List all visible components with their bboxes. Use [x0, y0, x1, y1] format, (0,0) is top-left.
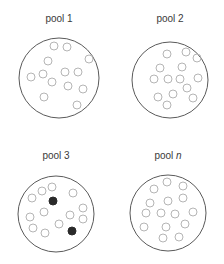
empty-item [29, 224, 37, 232]
empty-item [73, 101, 81, 109]
empty-item [79, 85, 87, 93]
filled-item [68, 227, 76, 235]
empty-item [64, 82, 72, 90]
empty-item [142, 209, 150, 217]
empty-item [183, 84, 191, 92]
pool-label-suffix: 1 [67, 13, 73, 24]
empty-item [156, 64, 164, 72]
empty-item [189, 94, 197, 102]
empty-item [182, 48, 190, 56]
pool-label-prefix: pool [154, 150, 176, 161]
empty-item [162, 223, 170, 231]
pools-diagram [0, 0, 224, 264]
empty-item [39, 70, 47, 78]
empty-item [194, 74, 202, 82]
empty-item [163, 101, 171, 109]
empty-item [164, 75, 172, 83]
empty-item [61, 68, 69, 76]
empty-item [28, 194, 36, 202]
empty-item [175, 233, 183, 241]
pool-boundary [130, 175, 206, 251]
empty-item [146, 199, 154, 207]
pool-boundary [132, 42, 208, 118]
empty-item [157, 209, 165, 217]
empty-item [40, 208, 48, 216]
pool-label-suffix: 2 [178, 13, 184, 24]
empty-item [48, 78, 56, 86]
empty-item [163, 178, 171, 186]
pool-n-label: pool n [128, 150, 208, 161]
empty-item [38, 187, 46, 195]
empty-item [179, 194, 187, 202]
empty-item [181, 220, 189, 228]
pool-label-prefix: pool [42, 150, 64, 161]
pool-label-prefix: pool [156, 13, 178, 24]
pool-2 [132, 42, 208, 118]
pool-1 [19, 38, 99, 118]
empty-item [193, 54, 201, 62]
empty-item [179, 182, 187, 190]
empty-item [150, 185, 158, 193]
pool-1-label: pool 1 [19, 13, 99, 24]
empty-item [163, 50, 171, 58]
pool-label-suffix: n [176, 150, 182, 161]
empty-item [169, 90, 177, 98]
pool-boundary [19, 38, 99, 118]
pool-4 [130, 175, 206, 251]
empty-item [159, 234, 167, 242]
empty-item [63, 43, 71, 51]
empty-item [66, 211, 74, 219]
empty-item [40, 93, 48, 101]
empty-item [69, 189, 77, 197]
empty-item [154, 93, 162, 101]
pool-2-label: pool 2 [130, 13, 210, 24]
pool-3 [18, 176, 94, 252]
empty-item [178, 63, 186, 71]
empty-item [164, 197, 172, 205]
empty-item [85, 55, 93, 63]
empty-item [189, 208, 197, 216]
empty-item [27, 73, 35, 81]
empty-item [150, 75, 158, 83]
empty-item [48, 183, 56, 191]
filled-item [49, 197, 57, 205]
empty-item [79, 215, 87, 223]
empty-item [140, 223, 148, 231]
pool-label-prefix: pool [45, 13, 67, 24]
empty-item [50, 42, 58, 50]
empty-item [26, 213, 34, 221]
pool-3-label: pool 3 [16, 150, 96, 161]
empty-item [74, 68, 82, 76]
empty-item [41, 229, 49, 237]
empty-item [55, 220, 63, 228]
empty-item [79, 204, 87, 212]
pool-label-suffix: 3 [64, 150, 70, 161]
empty-item [171, 210, 179, 218]
empty-item [176, 75, 184, 83]
empty-item [44, 57, 52, 65]
